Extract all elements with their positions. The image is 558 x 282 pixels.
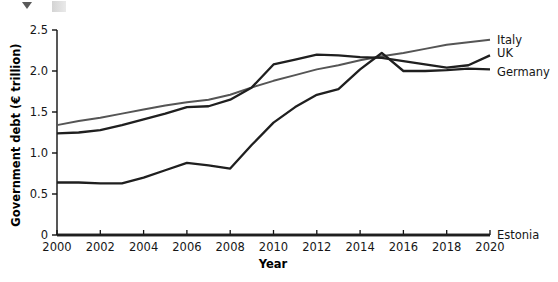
series-line-italy xyxy=(57,40,490,125)
gray-block-icon xyxy=(52,1,66,12)
y-tick-label: 2.0 xyxy=(30,64,48,78)
x-tick-label: 2000 xyxy=(42,240,71,254)
series-label-uk: UK xyxy=(497,46,513,60)
x-tick-label: 2014 xyxy=(345,240,374,254)
chart-figure: 00.51.01.52.02.5 20002002200420062008201… xyxy=(0,0,558,282)
y-tick-label: 1.0 xyxy=(30,146,48,160)
series-labels: ItalyUKGermanyEstonia xyxy=(497,33,550,242)
x-axis-title: Year xyxy=(258,257,288,271)
series-label-germany: Germany xyxy=(497,65,550,79)
y-tick-label: 1.5 xyxy=(30,105,48,119)
triangle-down-icon xyxy=(22,2,32,9)
x-axis-ticks: 2000200220042006200820102012201420162018… xyxy=(42,230,504,254)
x-tick-label: 2006 xyxy=(172,240,201,254)
y-tick-label: 0.5 xyxy=(30,187,48,201)
x-tick-label: 2018 xyxy=(432,240,461,254)
line-chart: 00.51.01.52.02.5 20002002200420062008201… xyxy=(0,0,558,282)
series-label-estonia: Estonia xyxy=(497,228,539,242)
x-tick-label: 2012 xyxy=(302,240,331,254)
series-label-italy: Italy xyxy=(497,33,522,47)
x-tick-label: 2020 xyxy=(475,240,504,254)
x-tick-label: 2002 xyxy=(86,240,115,254)
x-tick-label: 2010 xyxy=(259,240,288,254)
y-axis-ticks: 00.51.01.52.02.5 xyxy=(30,23,57,242)
x-tick-label: 2004 xyxy=(129,240,158,254)
y-axis-title: Government debt (€ trillion) xyxy=(9,43,23,226)
series-line-germany xyxy=(57,53,490,183)
x-tick-label: 2016 xyxy=(389,240,418,254)
x-tick-label: 2008 xyxy=(216,240,245,254)
y-tick-label: 2.5 xyxy=(30,23,48,37)
series-lines xyxy=(57,40,490,235)
